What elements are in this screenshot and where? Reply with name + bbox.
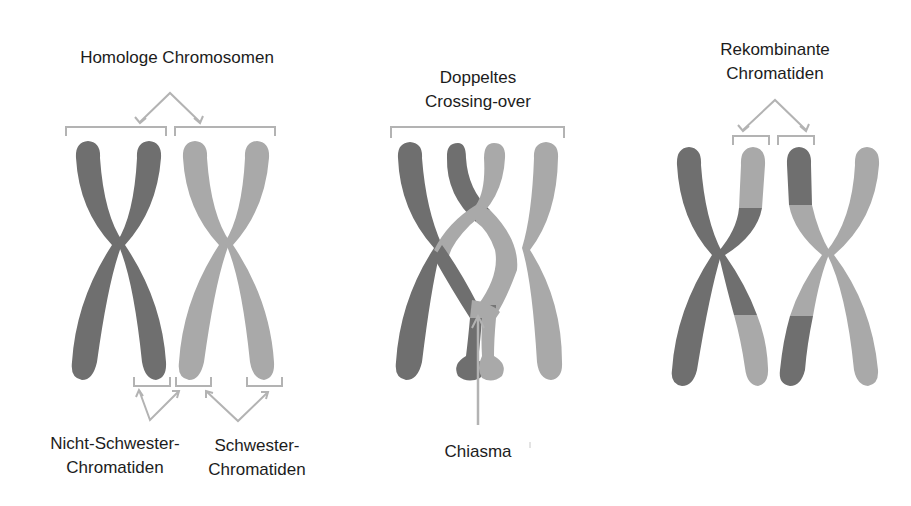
title-homologous-chromosomes: Homologe Chromosomen xyxy=(62,46,292,70)
bracket-recombinant-1 xyxy=(733,136,769,145)
chromosome-light-1 xyxy=(179,141,274,380)
label-non-sister-line2: Chromatiden xyxy=(30,456,200,480)
title-double-crossover-line2: Crossing-over xyxy=(400,90,556,114)
label-non-sister-chromatids: Nicht-Schwester- Chromatiden xyxy=(30,432,200,480)
homologous-chromosomes-panel xyxy=(66,93,282,421)
label-non-sister-line1: Nicht-Schwester- xyxy=(30,432,200,456)
recombinant-panel xyxy=(672,100,879,386)
bracket-homolog-2 xyxy=(175,127,275,136)
bracket-recombinant-2 xyxy=(778,136,814,145)
bracket-crossover xyxy=(391,127,564,138)
label-sister-chromatids: Schwester- Chromatiden xyxy=(196,434,318,482)
label-sister-line2: Chromatiden xyxy=(196,458,318,482)
title-recombinant-line2: Chromatiden xyxy=(705,62,845,86)
non-sister-arrows xyxy=(136,390,179,420)
label-chiasma: Chiasma xyxy=(430,440,526,464)
title-recombinant-chromatids: Rekombinante Chromatiden xyxy=(705,38,845,86)
recombinant-arrows xyxy=(738,100,809,131)
recombinant-chromosome-2 xyxy=(780,147,879,386)
chromosome-dark-1 xyxy=(72,141,166,380)
bracket-homolog-1 xyxy=(66,127,166,136)
title-double-crossover-line1: Doppeltes xyxy=(400,66,556,90)
sister-arrows xyxy=(206,391,268,421)
recombinant-chromosome-1 xyxy=(672,147,768,386)
label-sister-line1: Schwester- xyxy=(196,434,318,458)
homolog-arrows xyxy=(135,93,203,123)
double-crossover-panel xyxy=(391,127,564,448)
title-double-crossover: Doppeltes Crossing-over xyxy=(400,66,556,114)
title-recombinant-line1: Rekombinante xyxy=(705,38,845,62)
